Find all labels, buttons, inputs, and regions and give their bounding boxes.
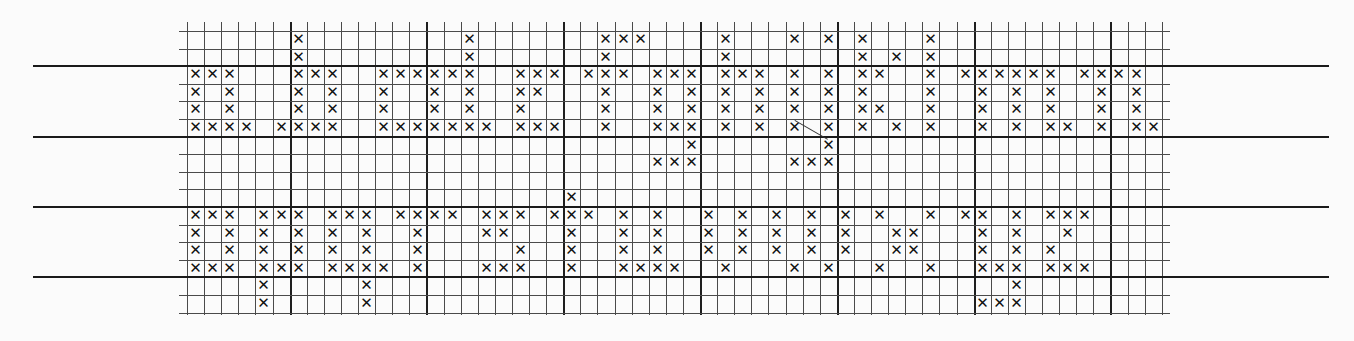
- x-mark-icon: ✕: [341, 260, 358, 277]
- x-mark-icon: ✕: [1059, 207, 1076, 224]
- x-mark-icon: ✕: [974, 295, 991, 312]
- x-mark-icon: ✕: [512, 101, 529, 118]
- x-mark-icon: ✕: [683, 154, 700, 171]
- x-mark-icon: ✕: [1059, 119, 1076, 136]
- x-mark-icon: ✕: [290, 225, 307, 242]
- x-mark-icon: ✕: [615, 242, 632, 259]
- x-mark-icon: ✕: [1128, 119, 1145, 136]
- x-mark-icon: ✕: [615, 31, 632, 48]
- x-mark-icon: ✕: [563, 242, 580, 259]
- x-mark-icon: ✕: [461, 84, 478, 101]
- x-mark-icon: ✕: [683, 66, 700, 83]
- x-mark-icon: ✕: [615, 66, 632, 83]
- x-mark-icon: ✕: [187, 260, 204, 277]
- x-mark-icon: ✕: [922, 66, 939, 83]
- x-mark-icon: ✕: [255, 295, 272, 312]
- x-mark-icon: ✕: [991, 260, 1008, 277]
- x-mark-icon: ✕: [221, 225, 238, 242]
- x-mark-icon: ✕: [358, 277, 375, 294]
- x-mark-icon: ✕: [803, 242, 820, 259]
- x-mark-icon: ✕: [854, 31, 871, 48]
- x-mark-icon: ✕: [683, 119, 700, 136]
- x-mark-icon: ✕: [1008, 207, 1025, 224]
- x-mark-icon: ✕: [649, 207, 666, 224]
- x-mark-icon: ✕: [1042, 260, 1059, 277]
- x-mark-icon: ✕: [922, 84, 939, 101]
- x-mark-icon: ✕: [187, 242, 204, 259]
- x-mark-icon: ✕: [1128, 101, 1145, 118]
- x-mark-icon: ✕: [478, 225, 495, 242]
- grid-hline: [179, 31, 1170, 32]
- x-mark-icon: ✕: [324, 242, 341, 259]
- x-mark-icon: ✕: [409, 119, 426, 136]
- x-mark-icon: ✕: [974, 66, 991, 83]
- x-mark-icon: ✕: [974, 84, 991, 101]
- x-mark-icon: ✕: [922, 119, 939, 136]
- x-mark-icon: ✕: [974, 101, 991, 118]
- x-mark-icon: ✕: [871, 207, 888, 224]
- x-mark-icon: ✕: [255, 207, 272, 224]
- x-mark-icon: ✕: [324, 101, 341, 118]
- x-mark-icon: ✕: [1128, 84, 1145, 101]
- x-mark-icon: ✕: [290, 84, 307, 101]
- x-mark-icon: ✕: [307, 119, 324, 136]
- x-mark-icon: ✕: [1042, 242, 1059, 259]
- x-mark-icon: ✕: [290, 207, 307, 224]
- x-mark-icon: ✕: [461, 119, 478, 136]
- x-mark-icon: ✕: [290, 119, 307, 136]
- x-mark-icon: ✕: [717, 260, 734, 277]
- x-mark-icon: ✕: [597, 84, 614, 101]
- x-mark-icon: ✕: [888, 225, 905, 242]
- x-mark-icon: ✕: [1093, 119, 1110, 136]
- x-mark-icon: ✕: [974, 119, 991, 136]
- x-mark-icon: ✕: [375, 101, 392, 118]
- x-mark-icon: ✕: [1093, 101, 1110, 118]
- x-mark-icon: ✕: [426, 207, 443, 224]
- grid-hline: [179, 189, 1170, 190]
- x-mark-icon: ✕: [957, 66, 974, 83]
- x-mark-icon: ✕: [1025, 66, 1042, 83]
- x-mark-icon: ✕: [597, 101, 614, 118]
- grid-hline: [179, 49, 1170, 50]
- x-mark-icon: ✕: [187, 66, 204, 83]
- x-mark-icon: ✕: [974, 260, 991, 277]
- x-mark-icon: ✕: [905, 225, 922, 242]
- x-mark-icon: ✕: [768, 242, 785, 259]
- x-mark-icon: ✕: [478, 119, 495, 136]
- x-mark-icon: ✕: [803, 207, 820, 224]
- x-mark-icon: ✕: [341, 207, 358, 224]
- x-mark-icon: ✕: [358, 260, 375, 277]
- grid-hline: [179, 313, 1170, 314]
- x-mark-icon: ✕: [529, 84, 546, 101]
- x-mark-icon: ✕: [922, 49, 939, 66]
- x-mark-icon: ✕: [1145, 119, 1162, 136]
- x-mark-icon: ✕: [324, 66, 341, 83]
- x-mark-icon: ✕: [187, 101, 204, 118]
- x-mark-icon: ✕: [409, 260, 426, 277]
- x-mark-icon: ✕: [837, 242, 854, 259]
- x-mark-icon: ✕: [324, 260, 341, 277]
- x-mark-icon: ✕: [204, 66, 221, 83]
- x-mark-icon: ✕: [803, 154, 820, 171]
- x-mark-icon: ✕: [221, 242, 238, 259]
- x-mark-icon: ✕: [871, 260, 888, 277]
- x-mark-icon: ✕: [358, 242, 375, 259]
- x-mark-icon: ✕: [512, 66, 529, 83]
- x-mark-icon: ✕: [255, 277, 272, 294]
- x-mark-icon: ✕: [597, 49, 614, 66]
- x-mark-icon: ✕: [204, 207, 221, 224]
- x-mark-icon: ✕: [786, 101, 803, 118]
- x-mark-icon: ✕: [426, 101, 443, 118]
- x-mark-icon: ✕: [221, 66, 238, 83]
- x-mark-icon: ✕: [1059, 260, 1076, 277]
- x-mark-icon: ✕: [221, 119, 238, 136]
- x-mark-icon: ✕: [546, 66, 563, 83]
- x-mark-icon: ✕: [786, 154, 803, 171]
- x-mark-icon: ✕: [444, 207, 461, 224]
- x-mark-icon: ✕: [1076, 260, 1093, 277]
- x-mark-icon: ✕: [563, 207, 580, 224]
- x-mark-icon: ✕: [273, 119, 290, 136]
- x-mark-icon: ✕: [1008, 295, 1025, 312]
- x-mark-icon: ✕: [615, 260, 632, 277]
- x-mark-icon: ✕: [221, 84, 238, 101]
